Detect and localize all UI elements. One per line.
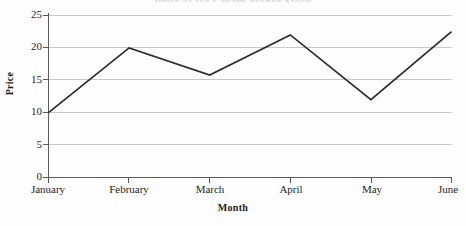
x-tick-label-january: January: [31, 183, 65, 195]
x-tick-label-june: June: [438, 183, 458, 195]
x-tick-label-april: April: [279, 183, 302, 195]
axes: [48, 13, 452, 178]
y-axis-ticks: [43, 16, 48, 178]
x-tick-label-may: May: [362, 183, 382, 195]
x-axis-tick-labels: January February March April May June: [0, 183, 466, 201]
gridlines: [48, 16, 452, 145]
line-chart-figure: Price of Ice Cream Month Stock Price 25 …: [0, 0, 466, 226]
x-tick-label-march: March: [196, 183, 225, 195]
data-series-line: [49, 32, 452, 113]
x-axis-title: Month: [0, 202, 466, 213]
x-tick-label-february: February: [109, 183, 149, 195]
